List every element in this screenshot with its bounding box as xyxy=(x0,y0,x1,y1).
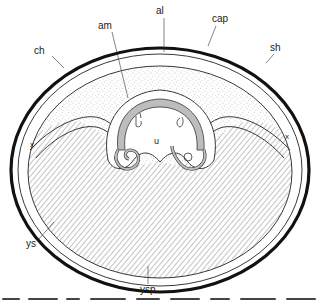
leader-cap xyxy=(208,26,216,46)
label-x-left: x xyxy=(30,140,34,149)
label-ys: ys xyxy=(26,238,36,249)
leader-ch xyxy=(52,56,64,68)
leader-sh xyxy=(266,54,274,63)
label-ch: ch xyxy=(34,45,45,56)
label-x-right: x xyxy=(285,132,289,141)
egg-cross-section-diagram: am al cap ch sh x x u ys ysp xyxy=(0,0,320,304)
label-al: al xyxy=(156,5,164,16)
label-sh: sh xyxy=(270,42,281,53)
label-ysp: ysp xyxy=(140,284,156,295)
label-am: am xyxy=(98,20,112,31)
label-cap: cap xyxy=(212,13,229,24)
label-u: u xyxy=(154,136,159,146)
truncated-caption xyxy=(0,298,320,304)
